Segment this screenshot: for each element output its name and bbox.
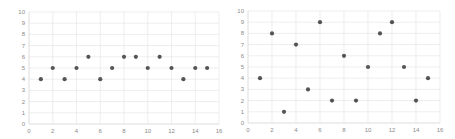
chart-svg: 0123456789100246810121416 bbox=[228, 0, 455, 139]
y-tick-label: 0 bbox=[241, 120, 245, 126]
y-tick-label: 9 bbox=[22, 20, 26, 26]
data-point bbox=[169, 66, 173, 70]
y-tick-label: 2 bbox=[241, 98, 245, 104]
y-tick-label: 3 bbox=[241, 86, 245, 92]
data-point bbox=[51, 66, 55, 70]
data-point bbox=[86, 55, 90, 59]
data-point bbox=[270, 31, 274, 35]
data-point bbox=[318, 20, 322, 24]
y-tick-label: 4 bbox=[22, 76, 26, 82]
y-tick-label: 8 bbox=[241, 30, 245, 36]
data-point bbox=[74, 66, 78, 70]
data-point bbox=[366, 65, 370, 69]
y-tick-label: 9 bbox=[241, 19, 245, 25]
data-point bbox=[146, 66, 150, 70]
data-point bbox=[282, 110, 286, 114]
x-tick-label: 16 bbox=[437, 127, 444, 133]
data-point bbox=[330, 99, 334, 103]
chart-svg: 0123456789100246810121416 bbox=[0, 0, 228, 139]
data-point bbox=[98, 77, 102, 81]
data-point bbox=[390, 20, 394, 24]
x-tick-label: 6 bbox=[318, 127, 322, 133]
x-tick-label: 0 bbox=[27, 128, 31, 134]
y-tick-label: 3 bbox=[22, 87, 26, 93]
scatter-chart-right: 0123456789100246810121416 bbox=[228, 0, 455, 139]
x-tick-label: 8 bbox=[122, 128, 126, 134]
y-tick-label: 10 bbox=[237, 8, 244, 14]
data-point bbox=[414, 99, 418, 103]
data-point bbox=[122, 55, 126, 59]
x-tick-label: 14 bbox=[413, 127, 420, 133]
x-tick-label: 4 bbox=[294, 127, 298, 133]
x-tick-label: 0 bbox=[246, 127, 250, 133]
x-tick-label: 4 bbox=[75, 128, 79, 134]
y-tick-label: 0 bbox=[22, 121, 26, 127]
x-tick-label: 16 bbox=[216, 128, 223, 134]
y-tick-label: 2 bbox=[22, 99, 26, 105]
y-tick-label: 6 bbox=[22, 54, 26, 60]
x-tick-label: 10 bbox=[365, 127, 372, 133]
data-point bbox=[134, 55, 138, 59]
y-tick-label: 4 bbox=[241, 75, 245, 81]
y-tick-label: 8 bbox=[22, 31, 26, 37]
y-tick-label: 7 bbox=[241, 42, 245, 48]
y-tick-label: 1 bbox=[241, 109, 245, 115]
data-point bbox=[306, 87, 310, 91]
data-point bbox=[205, 66, 209, 70]
scatter-chart-left: 0123456789100246810121416 bbox=[0, 0, 228, 139]
data-point bbox=[402, 65, 406, 69]
data-point bbox=[181, 77, 185, 81]
y-tick-label: 5 bbox=[241, 64, 245, 70]
data-point bbox=[354, 99, 358, 103]
data-point bbox=[110, 66, 114, 70]
data-point bbox=[258, 76, 262, 80]
y-tick-label: 10 bbox=[18, 9, 25, 15]
y-tick-label: 6 bbox=[241, 53, 245, 59]
y-tick-label: 7 bbox=[22, 43, 26, 49]
data-point bbox=[39, 77, 43, 81]
x-tick-label: 12 bbox=[389, 127, 396, 133]
y-tick-label: 1 bbox=[22, 110, 26, 116]
data-point bbox=[158, 55, 162, 59]
data-point bbox=[193, 66, 197, 70]
data-point bbox=[63, 77, 67, 81]
x-tick-label: 2 bbox=[51, 128, 55, 134]
x-tick-label: 10 bbox=[144, 128, 151, 134]
x-tick-label: 2 bbox=[270, 127, 274, 133]
x-tick-label: 8 bbox=[342, 127, 346, 133]
data-point bbox=[294, 43, 298, 47]
x-tick-label: 14 bbox=[192, 128, 199, 134]
data-point bbox=[342, 54, 346, 58]
y-tick-label: 5 bbox=[22, 65, 26, 71]
x-tick-label: 6 bbox=[99, 128, 103, 134]
data-point bbox=[378, 31, 382, 35]
x-tick-label: 12 bbox=[168, 128, 175, 134]
data-point bbox=[426, 76, 430, 80]
